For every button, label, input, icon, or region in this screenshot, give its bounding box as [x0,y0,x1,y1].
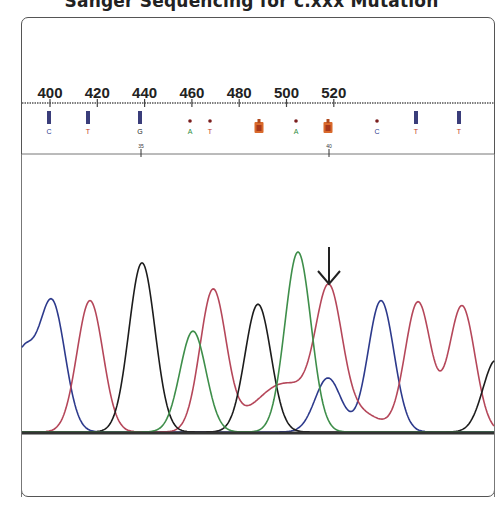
mutation-arrow-icon [318,247,340,284]
base-index-ticks: 3540 [138,143,332,157]
base-call: A [188,119,193,135]
ruler-tick-label: 420 [85,84,110,101]
base-call: T [86,111,91,135]
svg-text:T: T [86,128,91,135]
base-call: T [208,119,213,135]
svg-text:T: T [208,128,213,135]
ruler-tick-label: 440 [132,84,157,101]
svg-text:35: 35 [138,143,144,149]
base-call: G [137,111,142,135]
base-calls: CTGATACTT [46,111,461,135]
trace-t [22,284,494,432]
ruler-tick-label: 480 [227,84,252,101]
chromatogram: 400420440460480500520 CTGATACTT 3540 [0,0,503,506]
ruler-tick-label: 400 [37,84,62,101]
base-call [324,119,333,133]
trace-c [22,299,494,432]
ruler-tick-label: 500 [274,84,299,101]
svg-text:A: A [294,128,299,135]
svg-text:C: C [46,128,51,135]
svg-text:G: G [137,128,142,135]
trace-g [22,263,494,432]
svg-text:A: A [188,128,193,135]
base-call: C [374,119,379,135]
base-call: T [457,111,462,135]
trace-a [22,252,494,432]
base-call: T [414,111,419,135]
svg-text:40: 40 [326,143,332,149]
trace-curves [22,252,494,432]
ruler-tick-label: 520 [321,84,346,101]
base-call: A [294,119,299,135]
ruler-tick-label: 460 [179,84,204,101]
svg-text:C: C [374,128,379,135]
svg-text:T: T [414,128,419,135]
base-call [255,119,264,133]
base-call: C [46,111,51,135]
svg-text:T: T [457,128,462,135]
